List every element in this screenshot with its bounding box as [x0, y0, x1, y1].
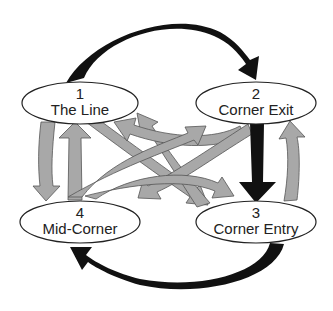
- arrow-1-to-2-primary: [66, 24, 259, 83]
- node-4-label: Mid-Corner: [42, 220, 117, 237]
- diagram-canvas: 1 The Line 2 Corner Exit 3 Corner Entry …: [0, 0, 333, 311]
- node-1-label: The Line: [51, 101, 109, 118]
- node-3-number: 3: [252, 204, 260, 221]
- arrow-3-to-4-primary: [70, 243, 284, 289]
- arrow-1-to-4: [33, 122, 60, 201]
- diagram-svg: 1 The Line 2 Corner Exit 3 Corner Entry …: [0, 0, 333, 311]
- node-3-label: Corner Entry: [213, 220, 299, 237]
- node-4-number: 4: [76, 204, 84, 221]
- node-4: 4 Mid-Corner: [20, 201, 140, 243]
- node-2: 2 Corner Exit: [196, 82, 316, 124]
- arrow-3-to-2: [279, 121, 305, 201]
- node-1-number: 1: [76, 85, 84, 102]
- node-3: 3 Corner Entry: [196, 201, 316, 243]
- node-2-label: Corner Exit: [218, 101, 294, 118]
- node-2-number: 2: [252, 85, 260, 102]
- node-1: 1 The Line: [22, 82, 138, 124]
- primary-arrows: [66, 24, 284, 289]
